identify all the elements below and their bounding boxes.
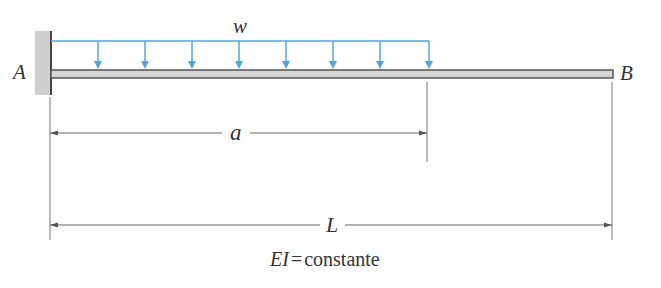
fixed-wall-support — [35, 31, 51, 95]
label-free-end-B: B — [620, 61, 633, 86]
caption-symbol: EI — [270, 248, 289, 270]
label-fixed-end-A: A — [13, 60, 26, 85]
caption-equals: = — [291, 248, 302, 270]
label-length-L: L — [326, 212, 338, 238]
caption-text: constante — [304, 248, 380, 270]
distributed-load — [51, 41, 433, 69]
label-load-w: w — [233, 14, 247, 39]
beam — [51, 70, 613, 78]
caption-EI-constant: EI=constante — [270, 248, 380, 271]
beam-diagram — [0, 0, 661, 288]
load-arrows — [94, 41, 433, 69]
label-length-a: a — [230, 120, 242, 146]
